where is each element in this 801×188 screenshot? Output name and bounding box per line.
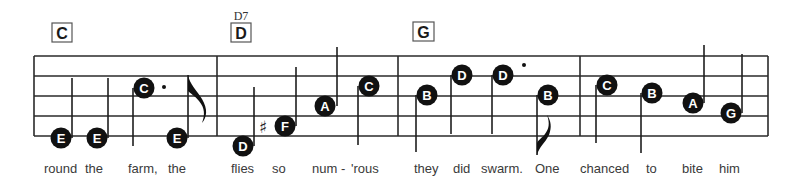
notes: EECEDF♯ACBDDBCBAG [51, 63, 742, 157]
note-letter: A [688, 96, 698, 111]
lyric-syllable: did [453, 161, 470, 176]
lyric-syllable: the [168, 161, 186, 176]
lyric-syllable: him [719, 161, 740, 176]
eighth-flag [537, 115, 551, 155]
sharp-icon: ♯ [259, 117, 267, 137]
note-letter: C [364, 79, 374, 94]
note-e: E [167, 128, 188, 149]
note-d: D [233, 136, 254, 157]
note-letter: E [173, 131, 182, 146]
note-e: E [87, 128, 108, 149]
note-letter: C [602, 78, 612, 93]
note-letter: B [422, 88, 431, 103]
note-letter: D [457, 68, 466, 83]
lyric-syllable: chanced [580, 161, 629, 176]
lyric-syllable: so [272, 161, 286, 176]
note-letter: E [93, 131, 102, 146]
note-letter: G [726, 106, 736, 121]
note-b: B [642, 83, 663, 104]
lyric-syllable: One [535, 161, 560, 176]
augmentation-dot [162, 85, 166, 89]
lyric-syllable: bite [682, 161, 703, 176]
note-letter: E [57, 131, 66, 146]
lyric-syllable: flies [231, 161, 255, 176]
lyric-syllable: num - [312, 161, 345, 176]
note-letter: F [281, 119, 289, 134]
chord-symbol-d: DD7 [231, 9, 251, 42]
lyrics: roundthefarm,thefliessonum -'roustheydid… [44, 161, 740, 176]
chord-symbol-g: G [413, 22, 434, 41]
lyric-syllable: round [44, 161, 77, 176]
note-f: F♯ [259, 116, 296, 138]
note-b: B [417, 85, 438, 106]
chord-label: C [56, 25, 68, 42]
lyric-syllable: 'rous [351, 161, 379, 176]
note-letter: D [498, 68, 507, 83]
chord-label: G [417, 24, 429, 41]
music-score: CDD7G EECEDF♯ACBDDBCBAG roundthefarm,the… [0, 0, 801, 188]
lyric-syllable: the [85, 161, 103, 176]
lyric-syllable: to [646, 161, 657, 176]
chord-variant-label: D7 [234, 9, 249, 23]
note-letter: B [543, 88, 552, 103]
note-d: D [493, 63, 527, 86]
note-letter: A [320, 99, 330, 114]
note-a: A [315, 96, 336, 117]
note-letter: B [647, 86, 656, 101]
chord-symbol-c: C [52, 23, 72, 42]
chord-symbols: CDD7G [52, 9, 434, 42]
note-c: C [597, 75, 618, 96]
chord-label: D [235, 25, 247, 42]
lyric-syllable: they [414, 161, 439, 176]
note-b: B [538, 85, 559, 106]
augmentation-dot [522, 63, 526, 67]
note-letter: C [139, 81, 149, 96]
note-a: A [683, 93, 704, 114]
note-e: E [51, 128, 72, 149]
lyric-syllable: farm, [128, 161, 158, 176]
lyric-syllable: swarm. [481, 161, 523, 176]
note-c: C [359, 76, 380, 97]
note-d: D [452, 65, 473, 86]
note-g: G [721, 103, 742, 124]
note-letter: D [238, 139, 247, 154]
